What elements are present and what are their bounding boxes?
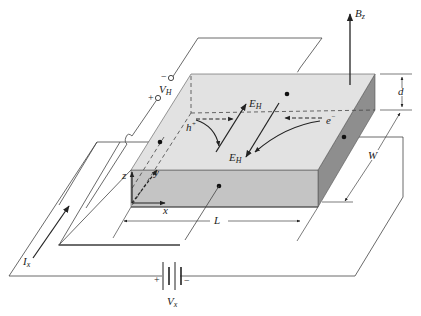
source-plus-sign: +	[154, 275, 160, 285]
current-arrow	[33, 206, 69, 258]
axis-z-label: z	[122, 170, 126, 181]
source-minus-sign: −	[184, 276, 190, 286]
axis-x-label: x	[163, 205, 168, 216]
electron-label: e−	[326, 114, 336, 126]
front-face	[131, 170, 318, 207]
dimension-d	[380, 74, 412, 110]
current-label: Ix	[23, 256, 30, 269]
thickness-label: d	[398, 86, 404, 97]
hall-effect-diagram	[0, 0, 421, 316]
hall-plus-sign: +	[148, 93, 154, 103]
inner-circuit	[59, 142, 97, 205]
battery-icon	[163, 262, 181, 290]
length-label: L	[214, 215, 220, 226]
hall-voltage-label: VH	[159, 84, 172, 97]
width-label: W	[368, 150, 377, 161]
dimension-l	[113, 207, 300, 238]
axis-y-label: y	[154, 167, 159, 178]
hall-field-label-bottom: EH	[229, 152, 242, 165]
hall-field-label-top: EH	[249, 98, 262, 111]
hall-minus-sign: −	[161, 72, 167, 82]
source-voltage-label: Vx	[167, 296, 177, 309]
hole-label: h+	[186, 121, 196, 133]
hall-terminal-minus	[168, 75, 173, 80]
magnetic-field-label: Bz	[355, 8, 365, 21]
